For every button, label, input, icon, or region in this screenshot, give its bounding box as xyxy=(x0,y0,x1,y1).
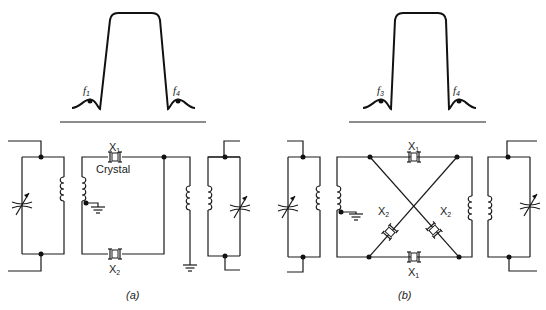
response-curve-b: f3 f4 xyxy=(349,13,486,122)
input-tank-circuit-b xyxy=(278,141,320,272)
output-transformer-a xyxy=(183,157,240,271)
marker-f4 xyxy=(457,99,462,104)
crystal-x1-top-b: X1 xyxy=(407,140,421,162)
output-tank-circuit-a xyxy=(208,141,250,270)
coil-icon xyxy=(316,186,320,210)
crystal-x1-a: X1 Crystal xyxy=(96,141,130,175)
crystal-icon xyxy=(407,152,421,162)
svg-text:Crystal: Crystal xyxy=(96,163,130,175)
crystal-x1-bottom-b: X1 xyxy=(407,252,421,279)
svg-text:X2: X2 xyxy=(378,205,389,218)
output-tank-circuit-b xyxy=(506,141,541,271)
panel-b: f3 f4 xyxy=(278,13,540,301)
svg-text:f3: f3 xyxy=(377,84,384,97)
marker-f3 xyxy=(379,99,384,104)
svg-text:f1: f1 xyxy=(83,84,90,97)
crystal-icon xyxy=(407,252,421,262)
panel-a: f1 f4 X1 Crysta xyxy=(8,13,250,301)
output-transformer-b xyxy=(457,157,530,257)
caption-b: (b) xyxy=(398,289,412,301)
lattice-network: X1 X1 X2 X2 xyxy=(367,140,462,279)
crystal-lattice-filter-figure: f1 f4 X1 Crysta xyxy=(0,0,546,310)
crystal-x2-a: X2 xyxy=(108,249,122,276)
response-curve-a: f1 f4 xyxy=(60,13,206,122)
svg-text:X1: X1 xyxy=(408,266,419,279)
svg-text:f4: f4 xyxy=(453,84,460,97)
svg-text:X1: X1 xyxy=(109,141,120,154)
marker-f1 xyxy=(88,99,93,104)
ground-icon xyxy=(91,207,105,213)
ground-icon xyxy=(183,265,197,271)
caption-a: (a) xyxy=(126,289,140,301)
marker-f4 xyxy=(176,99,181,104)
svg-text:X1: X1 xyxy=(408,140,419,153)
center-tapped-secondary-b xyxy=(337,157,370,257)
crystal-icon xyxy=(108,249,122,259)
svg-text:f4: f4 xyxy=(173,84,180,97)
ground-icon xyxy=(349,214,363,220)
svg-text:X2: X2 xyxy=(440,205,451,218)
coil-icon xyxy=(60,177,64,201)
input-tank-circuit xyxy=(8,141,64,271)
svg-text:X2: X2 xyxy=(109,263,120,276)
